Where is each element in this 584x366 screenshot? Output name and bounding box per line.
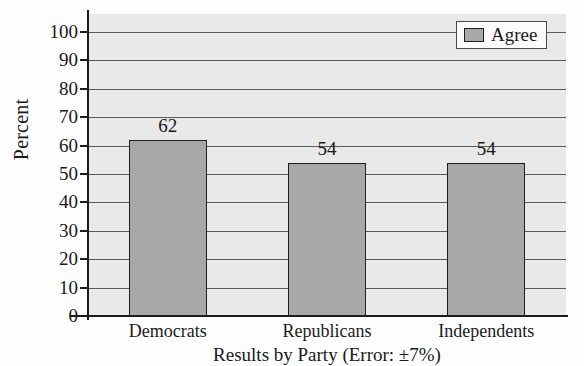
y-tick-mark xyxy=(80,315,88,317)
bar-value-label: 62 xyxy=(128,116,208,135)
bar xyxy=(447,163,525,316)
y-tick-label: 80 xyxy=(30,79,78,98)
y-tick-mark xyxy=(80,173,88,175)
y-tick-label: 100 xyxy=(30,22,78,41)
y-tick-label: 10 xyxy=(30,278,78,297)
y-tick-label: 90 xyxy=(30,50,78,69)
bar xyxy=(129,140,207,316)
y-tick-label: 60 xyxy=(30,136,78,155)
y-tick-label: 50 xyxy=(30,164,78,183)
y-tick-mark xyxy=(80,287,88,289)
gridline xyxy=(88,60,566,61)
gridline xyxy=(88,89,566,90)
y-tick-label: 0 xyxy=(30,306,78,325)
legend: Agree xyxy=(456,21,547,49)
y-tick-label: 20 xyxy=(30,249,78,268)
y-tick-mark xyxy=(80,88,88,90)
y-tick-mark xyxy=(80,230,88,232)
bar-value-label: 54 xyxy=(446,139,526,158)
y-tick-mark xyxy=(80,258,88,260)
y-tick-mark xyxy=(80,145,88,147)
y-tick-mark xyxy=(80,31,88,33)
legend-swatch-agree xyxy=(464,28,484,42)
y-axis-spine xyxy=(87,10,89,320)
legend-label-agree: Agree xyxy=(491,25,537,44)
y-tick-mark xyxy=(80,116,88,118)
bar-value-label: 54 xyxy=(287,139,367,158)
x-axis-title: Results by Party (Error: ±7%) xyxy=(88,344,566,366)
x-tick-label: Republicans xyxy=(247,322,407,342)
y-tick-mark xyxy=(80,59,88,61)
x-tick-label: Independents xyxy=(406,322,566,342)
x-tick-label: Democrats xyxy=(88,322,248,342)
y-tick-mark xyxy=(80,201,88,203)
bar xyxy=(288,163,366,316)
y-tick-label: 30 xyxy=(30,221,78,240)
y-tick-label: 40 xyxy=(30,192,78,211)
y-tick-label: 70 xyxy=(30,107,78,126)
